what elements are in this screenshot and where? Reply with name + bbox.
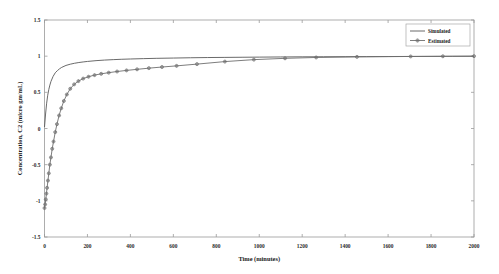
- axis-ticks: 0200400600800100012001400160018002000-1.…: [32, 17, 480, 249]
- legend-label-estimated: Estimated: [428, 38, 451, 44]
- chart-figure: 0200400600800100012001400160018002000-1.…: [0, 0, 499, 274]
- x-tick-label: 200: [83, 243, 91, 249]
- y-tick-label: 1.5: [34, 17, 41, 23]
- y-tick-label: -0.5: [32, 162, 41, 168]
- x-tick-label: 1800: [426, 243, 437, 249]
- legend-label-simulated: Simulated: [428, 28, 451, 34]
- x-tick-label: 1000: [254, 243, 265, 249]
- y-tick-label: 1: [38, 53, 41, 59]
- x-tick-label: 1200: [297, 243, 308, 249]
- y-tick-label: -1: [36, 198, 41, 204]
- y-axis-title: Concentration, C2 (micro gm/mL): [16, 82, 24, 176]
- axes-frame: [45, 20, 475, 237]
- x-tick-label: 1600: [383, 243, 394, 249]
- x-axis-title: Time (minutes): [238, 255, 280, 263]
- y-tick-label: 0.5: [34, 89, 41, 95]
- y-tick-label: 0: [38, 126, 41, 132]
- x-tick-label: 2000: [469, 243, 480, 249]
- data-series: [43, 55, 476, 210]
- x-tick-label: 600: [169, 243, 177, 249]
- series-line-simulated: [45, 56, 475, 127]
- y-tick-label: -1.5: [32, 234, 41, 240]
- x-tick-label: 0: [43, 243, 46, 249]
- concentration-line-chart: 0200400600800100012001400160018002000-1.…: [0, 0, 499, 274]
- plot-frame: [45, 20, 475, 237]
- series-line-estimated: [45, 56, 475, 208]
- axis-labels: Time (minutes)Concentration, C2 (micro g…: [16, 82, 280, 263]
- x-tick-label: 400: [126, 243, 134, 249]
- chart-legend: SimulatedEstimated: [406, 24, 470, 46]
- x-tick-label: 800: [212, 243, 220, 249]
- x-tick-label: 1400: [340, 243, 351, 249]
